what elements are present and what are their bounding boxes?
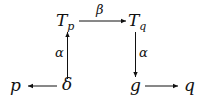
node-t-q: Tq (128, 12, 146, 29)
node-t-p-sub: p (67, 20, 74, 33)
label-beta: β (96, 3, 104, 16)
label-alpha-left: α (55, 46, 64, 59)
node-t-p: Tp (56, 12, 74, 29)
node-t-q-base: T (128, 10, 139, 30)
node-p: p (10, 77, 21, 94)
label-alpha-right: α (139, 46, 148, 59)
node-delta: δ (62, 76, 72, 93)
node-q: q (184, 77, 195, 94)
node-t-p-base: T (56, 10, 67, 30)
node-g: g (130, 77, 141, 94)
node-t-q-sub: q (139, 20, 146, 33)
